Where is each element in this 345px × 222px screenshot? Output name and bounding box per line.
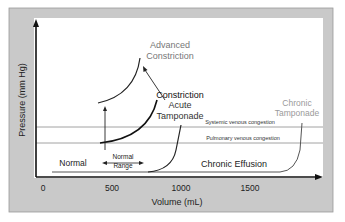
- pressure-volume-chart: Advanced Constriction Constriction Acute…: [0, 0, 345, 222]
- label-pulmonary-congestion: Pulmonary venous congestion: [206, 135, 280, 141]
- label-advanced: Advanced: [150, 40, 190, 50]
- label-systemic-congestion: Systemic venous congestion: [205, 119, 275, 125]
- label-acute: Acute: [168, 100, 191, 110]
- label-advanced-constriction: Constriction: [146, 51, 194, 61]
- x-tick-1500: 1500: [241, 183, 260, 193]
- label-normal-range-2: Range: [113, 162, 133, 170]
- label-acute-tamponade: Tamponade: [156, 111, 203, 121]
- label-normal-range-1: Normal: [113, 153, 135, 160]
- label-normal: Normal: [59, 158, 87, 168]
- label-chronic-effusion: Chronic Effusion: [201, 159, 267, 169]
- y-axis-title: Pressure (mm Hg): [17, 63, 27, 137]
- x-tick-0: 0: [41, 183, 46, 193]
- x-tick-500: 500: [105, 183, 119, 193]
- x-tick-1000: 1000: [172, 183, 191, 193]
- label-chronic: Chronic: [282, 98, 312, 108]
- label-constriction: Constriction: [156, 90, 204, 100]
- x-axis-title: Volume (mL): [151, 197, 202, 207]
- label-chronic-tamponade: Tamponade: [275, 108, 320, 118]
